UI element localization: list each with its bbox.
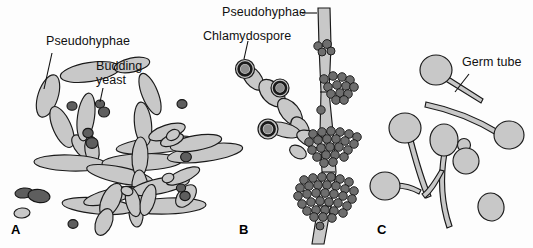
label-pseudohyphae-b: Pseudohyphae [222, 6, 306, 20]
panel-c-illustration [370, 55, 524, 228]
label-budding-yeast-line2: yeast [96, 74, 142, 88]
label-budding-yeast-a: Budding yeast [96, 60, 142, 87]
chlamydospore-leader-line [244, 41, 248, 59]
blastoconidia-cluster [305, 127, 362, 168]
label-budding-yeast-line1: Budding [96, 60, 142, 74]
label-pseudohyphae-a: Pseudohyphae [46, 35, 130, 49]
yeast-cell-with-germ-tube [370, 172, 421, 200]
blastoconidium [317, 106, 325, 114]
label-germ-tube-c: Germ tube [462, 56, 522, 70]
pseudohypha-cell [14, 207, 31, 218]
budding-yeast [68, 220, 78, 229]
budding-yeast [177, 100, 187, 109]
panel-letter-a: A [11, 222, 20, 237]
panel-letter-b: B [239, 222, 248, 237]
blastoconidium [314, 40, 335, 56]
label-chlamydospore-b: Chlamydospore [203, 30, 291, 44]
yeast-cell [475, 191, 506, 224]
chlamydospore [236, 60, 255, 79]
chlamydospore [258, 119, 278, 139]
yeast-cell-with-germ-tube [430, 124, 458, 228]
figure-canvas: .cell { fill:#c8c8c8; stroke:#1a1a1a; st… [0, 0, 533, 248]
panel-letter-c: C [377, 222, 386, 237]
blastoconidium [316, 222, 324, 230]
budding-yeast [67, 102, 77, 111]
budding-yeast [15, 187, 51, 204]
chlamydospore [271, 79, 289, 97]
budding-yeast [95, 100, 109, 117]
budding-yeast [181, 152, 192, 162]
